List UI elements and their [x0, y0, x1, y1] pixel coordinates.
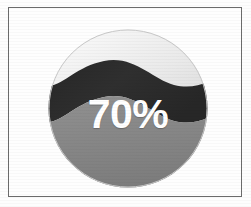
gauge-svg [48, 29, 208, 188]
figure-canvas: 70% [0, 0, 251, 207]
circular-gauge: 70% [48, 29, 208, 188]
